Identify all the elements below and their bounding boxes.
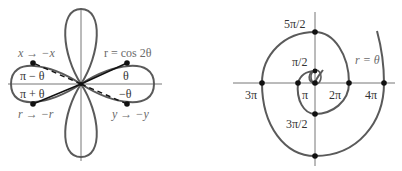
point-pi-minus-theta: [30, 60, 36, 66]
point-pi: [295, 80, 301, 86]
spiral-plot: 5π/2 π/2 3π π 2π 4π 3π/2 r = θ: [200, 0, 402, 171]
point-3pi: [259, 80, 265, 86]
point-bottom: [312, 153, 318, 159]
label-5pi-2: 5π/2: [284, 17, 305, 31]
rose-curve-plot: r = cos 2θ θ −θ π − θ π + θ x → −x r → −…: [0, 0, 200, 171]
label-3pi: 3π: [245, 88, 257, 102]
symmetry-label-y: y → −y: [111, 107, 149, 121]
angle-label-neg-theta: −θ: [119, 87, 132, 101]
label-2pi: 2π: [329, 88, 341, 102]
point-3pi-2: [312, 111, 318, 117]
origin-point: [312, 80, 318, 86]
label-pi-2: π/2: [292, 55, 307, 69]
spiral-figure: 5π/2 π/2 3π π 2π 4π 3π/2 r = θ: [200, 0, 402, 171]
point-4pi: [381, 80, 387, 86]
angle-label-pi-plus-theta: π + θ: [20, 87, 45, 101]
rose-curve-label: r = cos 2θ: [104, 46, 152, 60]
point-5pi-2: [312, 29, 318, 35]
label-3pi-2: 3π/2: [286, 117, 307, 131]
symmetry-label-r: r → −r: [18, 107, 54, 121]
spiral-curve-label: r = θ: [355, 53, 380, 67]
point-2pi: [346, 80, 352, 86]
origin-point: [79, 82, 83, 86]
label-pi: π: [302, 88, 308, 102]
point-pi-plus-theta: [30, 101, 36, 107]
point-pi-2: [313, 69, 318, 74]
point-neg-theta: [124, 101, 130, 107]
label-4pi: 4π: [365, 88, 377, 102]
symmetry-label-x: x → −x: [17, 46, 55, 60]
rose-curve-figure: r = cos 2θ θ −θ π − θ π + θ x → −x r → −…: [0, 0, 200, 171]
angle-label-theta: θ: [123, 69, 129, 83]
angle-label-pi-minus-theta: π − θ: [20, 69, 45, 83]
point-theta: [124, 60, 130, 66]
